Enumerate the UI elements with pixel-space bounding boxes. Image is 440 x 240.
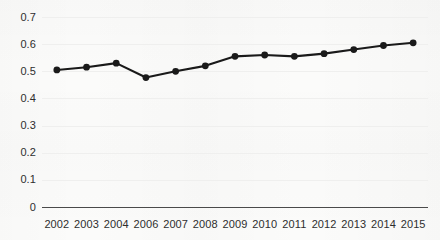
data-point-marker: 2008: 0.52	[202, 62, 209, 69]
data-point-marker: 2006: 0.477	[143, 74, 150, 81]
x-axis-tick-label: 2003	[74, 219, 99, 230]
data-point-marker: 2007: 0.5	[172, 68, 179, 75]
data-point-marker: 2011: 0.555	[291, 53, 298, 60]
x-axis-tick-labels: 2002200320042006200720082009201020112012…	[0, 219, 440, 235]
data-point-marker: 2009: 0.555	[232, 53, 239, 60]
x-axis-tick-label: 2006	[133, 219, 158, 230]
line-chart: 00.10.20.30.40.50.60.7 2002: 0.5052003: …	[0, 0, 440, 240]
data-point-marker: 2003: 0.515	[83, 64, 90, 71]
x-axis-tick-label: 2010	[252, 219, 277, 230]
data-point-marker: 2010: 0.56	[261, 52, 268, 59]
x-axis-tick-label: 2013	[341, 219, 366, 230]
data-point-marker: 2004: 0.53	[113, 60, 120, 67]
x-axis-tick-label: 2011	[282, 219, 306, 230]
data-point-marker: 2012: 0.565	[321, 50, 328, 57]
x-axis-tick-label: 2007	[163, 219, 188, 230]
data-point-marker: 2002: 0.505	[53, 67, 60, 74]
x-axis-tick-label: 2008	[193, 219, 218, 230]
x-axis-tick-label: 2002	[44, 219, 69, 230]
data-point-marker: 2014: 0.595	[380, 42, 387, 49]
series-markers: 2002: 0.5052003: 0.5152004: 0.532006: 0.…	[53, 39, 416, 81]
x-axis-tick-label: 2015	[401, 219, 426, 230]
series-line	[57, 43, 413, 78]
data-point-marker: 2013: 0.58	[350, 46, 357, 53]
x-axis-tick-label: 2014	[371, 219, 396, 230]
data-point-marker: 2015: 0.605	[410, 39, 417, 46]
series-layer: 2002: 0.5052003: 0.5152004: 0.532006: 0.…	[0, 0, 440, 240]
x-axis-tick-label: 2004	[104, 219, 129, 230]
x-axis-tick-label: 2009	[223, 219, 248, 230]
x-axis-tick-label: 2012	[312, 219, 337, 230]
